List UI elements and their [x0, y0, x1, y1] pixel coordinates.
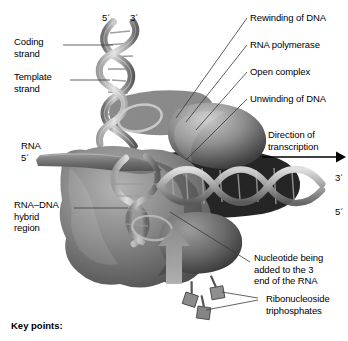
label-ribonucleoside-triphosphates: Ribonucleoside triphosphates — [266, 293, 330, 316]
label-rewinding-of-dna: Rewinding of DNA — [250, 12, 326, 24]
key-points-heading: Key points: — [11, 320, 63, 331]
label-coding-strand: Coding strand — [14, 36, 44, 59]
prime-top-template-3: 3´ — [130, 12, 138, 23]
label-direction-of-transcription: Direction of transcription — [268, 129, 318, 152]
ribonucleoside-triphosphate-shapes — [182, 274, 225, 320]
label-rna-dna-hybrid-region: RNA–DNA hybrid region — [14, 199, 59, 234]
label-open-complex: Open complex — [250, 66, 310, 78]
prime-rna-5: 5´ — [21, 152, 29, 163]
label-rna: RNA — [21, 140, 41, 152]
prime-right-5: 5´ — [335, 206, 343, 217]
label-rna-polymerase: RNA polymerase — [250, 39, 320, 51]
prime-top-coding-5: 5´ — [102, 12, 110, 23]
label-nucleotide-added: Nucleotide being added to the 3 end of t… — [254, 252, 323, 287]
prime-right-3: 3´ — [335, 172, 343, 183]
label-template-strand: Template strand — [14, 71, 52, 94]
diagram-artwork — [0, 0, 348, 341]
transcription-diagram: Coding strand Template strand RNA RNA–DN… — [0, 0, 348, 341]
label-unwinding-of-dna: Unwinding of DNA — [250, 93, 326, 105]
